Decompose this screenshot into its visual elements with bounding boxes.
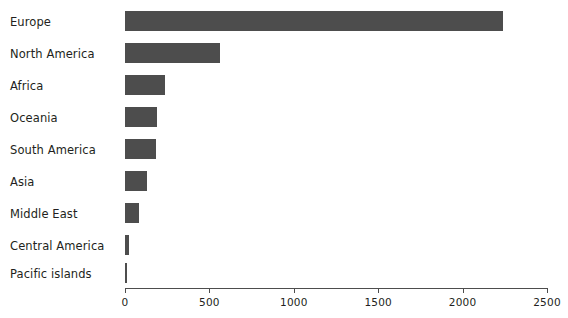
x-tick-label-500: 500 [199,296,220,308]
category-label-central-america: Central America [10,241,104,253]
x-tick-label-2500: 2500 [533,296,561,308]
bar-africa [125,75,165,95]
bar-central-america [125,235,129,255]
category-label-pacific-islands: Pacific islands [10,269,92,281]
x-tick-1000 [294,288,295,293]
category-label-africa: Africa [10,81,43,93]
x-tick-500 [209,288,210,293]
x-tick-0 [125,288,126,293]
plot-area: Europe North America Africa Oceania Sout… [0,0,568,318]
x-tick-label-1000: 1000 [280,296,308,308]
x-tick-2500 [547,288,548,293]
bar-north-america [125,43,220,63]
category-label-south-america: South America [10,145,96,157]
category-label-middle-east: Middle East [10,209,78,221]
x-tick-label-1500: 1500 [364,296,392,308]
x-tick-2000 [463,288,464,293]
bar-pacific-islands [125,263,127,283]
bar-south-america [125,139,156,159]
x-tick-label-0: 0 [122,296,129,308]
x-tick-label-2000: 2000 [449,296,477,308]
bar-asia [125,171,147,191]
category-label-asia: Asia [10,177,35,189]
bar-middle-east [125,203,139,223]
bar-chart: Europe North America Africa Oceania Sout… [0,0,568,318]
category-label-north-america: North America [10,49,95,61]
category-label-europe: Europe [10,17,51,29]
bar-europe [125,11,503,31]
category-label-oceania: Oceania [10,113,58,125]
x-tick-1500 [378,288,379,293]
bar-oceania [125,107,157,127]
x-axis-line [125,288,547,289]
